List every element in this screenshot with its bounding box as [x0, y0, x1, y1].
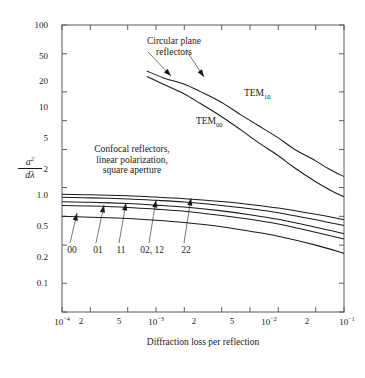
annotation-circular-plane-reflectors: Circular plane reflectors — [112, 36, 236, 57]
annotation-confocal-line2: linear polarization, — [64, 155, 200, 166]
curve-label-tem00: TEM00 — [196, 116, 223, 128]
y-axis-title: a2 dλ — [18, 155, 42, 180]
mode-label-22: 22 — [175, 245, 197, 256]
ytick-label-50: 50 — [14, 51, 48, 61]
xtick-label-1e-3: 10−3 — [140, 316, 172, 327]
ytick-label-20: 20 — [14, 76, 48, 86]
ytick-label-5: 5 — [14, 133, 48, 143]
ytick-label-100: 100 — [14, 20, 48, 30]
ytick-label-0-1: 0.1 — [14, 278, 48, 288]
ytick-label-1: 1.0 — [14, 190, 48, 200]
pointer-mode-3-head — [152, 200, 157, 208]
ytick-label-0-2: 0.2 — [14, 252, 48, 262]
annotation-confocal-line1: Confocal reflectors, — [64, 144, 200, 155]
y-axis-title-numerator: a2 — [18, 155, 42, 168]
xtick-label-5a: 5 — [106, 316, 132, 326]
x-axis-title: Diffraction loss per reflection — [62, 337, 344, 348]
y-axis-title-denominator: dλ — [18, 170, 42, 181]
annotation-circular-line2: reflectors — [112, 47, 236, 58]
xtick-label-1e-2: 10−2 — [253, 316, 285, 327]
mode-label-11: 11 — [110, 245, 132, 256]
mode-label-02-12: 02, 12 — [131, 245, 173, 256]
ytick-label-10: 10 — [14, 102, 48, 112]
xtick-label-2b: 2 — [181, 316, 207, 326]
mode-label-01: 01 — [87, 245, 109, 256]
xtick-label-5b: 5 — [219, 316, 245, 326]
curve-label-tem10: TEM10 — [244, 88, 271, 100]
xtick-label-2c: 2 — [294, 316, 320, 326]
annotation-confocal-note: Confocal reflectors, linear polarization… — [64, 144, 200, 176]
figure-container: 100 50 20 10 5 2 1.0 0.5 0.2 0.1 a2 dλ 1… — [0, 0, 365, 378]
pointer-circular-right-head — [198, 69, 204, 77]
mode-label-00: 00 — [61, 245, 83, 256]
ytick-label-0-5: 0.5 — [14, 221, 48, 231]
annotation-confocal-line3: square aperture — [64, 165, 200, 176]
annotation-circular-line1: Circular plane — [112, 36, 236, 47]
xtick-label-2a: 2 — [68, 316, 94, 326]
xtick-label-1e-1: 10−1 — [331, 316, 363, 327]
